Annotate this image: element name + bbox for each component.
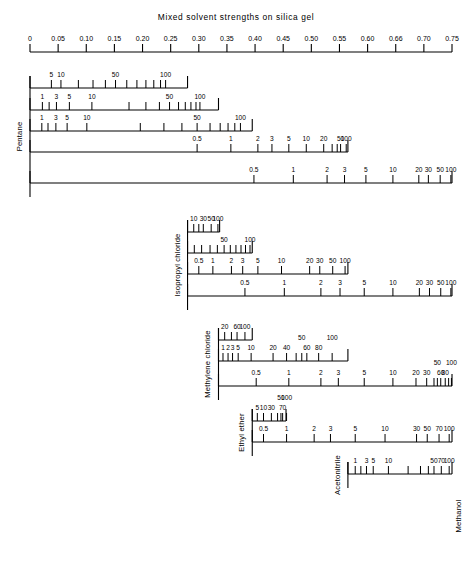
scale-tick-label: 3 bbox=[338, 279, 342, 286]
scale-tick-label: 1 bbox=[285, 425, 289, 432]
scale-tick-label: 50 bbox=[434, 359, 442, 366]
scale-tick-label: 10 bbox=[278, 257, 286, 264]
scale-tick-label: 50 bbox=[424, 425, 432, 432]
group-label: Isopropyl chloride bbox=[173, 233, 182, 296]
scale-tick-label: 20 bbox=[415, 166, 423, 173]
scale-tick-label: 100 bbox=[444, 425, 455, 432]
scale-tick-label: 2 bbox=[230, 257, 234, 264]
top-axis-tick-label: 0.70 bbox=[417, 35, 431, 42]
scale-tick-label: 30 bbox=[423, 369, 431, 376]
scale-tick-label: 1 bbox=[291, 166, 295, 173]
scale-tick-label: 50 bbox=[166, 93, 174, 100]
scale-tick-label: 0.5 bbox=[193, 135, 202, 142]
scale-tick-label: 20 bbox=[306, 257, 314, 264]
scale-tick-label: 5 bbox=[353, 425, 357, 432]
scale-tick-label: 100 bbox=[235, 114, 246, 121]
scale-tick-label: 3 bbox=[270, 135, 274, 142]
scale-tick-label: 3 bbox=[241, 257, 245, 264]
scale-tick-label: 20 bbox=[412, 369, 420, 376]
scale-tick-label: 70 bbox=[435, 425, 443, 432]
top-axis-tick-label: 0.66 bbox=[389, 35, 403, 42]
right-end-label: Methanol bbox=[454, 499, 463, 532]
scale-tick-label: 0.5 bbox=[240, 279, 249, 286]
top-axis-tick-label: 0.45 bbox=[276, 35, 290, 42]
scale-tick-label: 0.5 bbox=[259, 425, 268, 432]
scale-tick-label: 100 bbox=[446, 359, 457, 366]
scale-tick-label: 5 bbox=[362, 369, 366, 376]
scale-tick-label: 100 bbox=[445, 279, 456, 286]
scale-tick-label: 5 bbox=[50, 71, 54, 78]
scale-tick-label: 100 bbox=[444, 457, 455, 464]
scale-tick-label: 1 bbox=[229, 135, 233, 142]
scale-tick-label: 1 bbox=[221, 344, 225, 351]
scale-tick-label: 50 bbox=[193, 114, 201, 121]
scale-tick-label: 100 bbox=[160, 71, 171, 78]
scale-tick-label: 30 bbox=[200, 215, 208, 222]
scale-tick-label: 0.5 bbox=[194, 257, 203, 264]
scale-tick-label: 10 bbox=[247, 344, 255, 351]
scale-tick-label: 0.5 bbox=[252, 369, 261, 376]
scale-tick-label: 1 bbox=[353, 457, 357, 464]
scale-tick-label: 10 bbox=[57, 71, 65, 78]
scale-tick-label: 3 bbox=[343, 166, 347, 173]
scale-tick-label: 30 bbox=[413, 425, 421, 432]
scale-tick-label: 1 bbox=[282, 279, 286, 286]
scale-tick-label: 10 bbox=[88, 93, 96, 100]
scale-tick-label: 100 bbox=[445, 166, 456, 173]
scale-tick-label: 10 bbox=[381, 425, 389, 432]
scale-tick-label: 1 bbox=[287, 369, 291, 376]
scale-tick-label: 5 bbox=[236, 344, 240, 351]
scale-tick-label: 50 bbox=[112, 71, 120, 78]
scale-tick-label: 50 bbox=[220, 236, 228, 243]
scale-tick-label: 10 bbox=[260, 404, 268, 411]
scale-tick-label: 10 bbox=[385, 457, 393, 464]
scale-tick-label: 3 bbox=[337, 369, 341, 376]
scale-tick-label: 100 bbox=[212, 215, 223, 222]
scale-tick-label: 20 bbox=[221, 323, 229, 330]
scale-tick-label: 50 bbox=[437, 166, 445, 173]
top-axis-tick-label: 0.30 bbox=[192, 35, 206, 42]
chart-canvas: Mixed solvent strengths on silica gel 00… bbox=[0, 0, 473, 563]
scale-tick-label: 100 bbox=[327, 334, 338, 341]
group-label: Methylene chloride bbox=[203, 330, 212, 397]
scale-tick-label: 10 bbox=[389, 166, 397, 173]
scale-tick-label: 2 bbox=[256, 135, 260, 142]
scale-tick-label: 0.5 bbox=[249, 166, 258, 173]
scale-tick-label: 40 bbox=[283, 344, 291, 351]
scale-tick-label: 20 bbox=[320, 135, 328, 142]
group-label: Ethyl ether bbox=[237, 413, 246, 452]
scale-tick-label: 1 bbox=[40, 114, 44, 121]
scale-tick-label: 20 bbox=[416, 279, 424, 286]
scale-tick-label: 100 bbox=[340, 257, 351, 264]
scale-tick-label: 5 bbox=[256, 257, 260, 264]
scale-tick-label: 5 bbox=[68, 93, 72, 100]
top-axis-tick-label: 0.15 bbox=[108, 35, 122, 42]
scale-tick-label: 2 bbox=[226, 344, 230, 351]
scale-tick-label: 30 bbox=[425, 166, 433, 173]
scale-tick-label: 60 bbox=[303, 344, 311, 351]
scale-tick-label: 50 bbox=[437, 279, 445, 286]
scale-tick-label: 3 bbox=[231, 344, 235, 351]
scale-tick-label: 50 bbox=[329, 257, 337, 264]
scale-tick-label: 10 bbox=[389, 369, 397, 376]
scale-tick-label: 100 bbox=[239, 323, 250, 330]
scale-tick-label: 2 bbox=[319, 369, 323, 376]
scale-tick-label: 30 bbox=[316, 257, 324, 264]
group-label: Pentane bbox=[15, 122, 24, 152]
scale-tick-label: 80 bbox=[315, 344, 323, 351]
scale-tick-label: 5 bbox=[371, 457, 375, 464]
scale-tick-label: 3 bbox=[329, 425, 333, 432]
scale-tick-label: 3 bbox=[365, 457, 369, 464]
top-axis-tick-label: 0.60 bbox=[361, 35, 375, 42]
top-axis-tick-label: 0.10 bbox=[79, 35, 93, 42]
scale-tick-label: 2 bbox=[312, 425, 316, 432]
chart-background bbox=[0, 0, 473, 563]
scale-tick-label: 100 bbox=[244, 236, 255, 243]
top-axis-tick-label: 0.35 bbox=[220, 35, 234, 42]
scale-tick-label: 70 bbox=[279, 404, 287, 411]
scale-tick-label: 1 bbox=[211, 257, 215, 264]
scale-tick-label: 5 bbox=[362, 279, 366, 286]
scale-tick-label: 1 bbox=[41, 93, 45, 100]
scale-tick-label: 100 bbox=[194, 93, 205, 100]
scale-tick-label: 30 bbox=[426, 279, 434, 286]
